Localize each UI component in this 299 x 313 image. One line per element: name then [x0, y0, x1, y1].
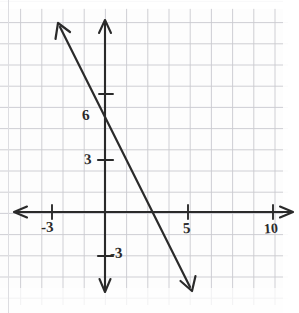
graph-canvas — [0, 0, 299, 313]
x-axis-label-5: 5 — [182, 221, 191, 236]
y-axis-label-3: 3 — [84, 152, 92, 167]
x-axis-label-10: 10 — [264, 222, 279, 237]
grid-bottom-fade — [0, 288, 299, 313]
y-axis-label-neg3: -3 — [109, 246, 123, 262]
x-axis-label-neg3: -3 — [41, 220, 54, 236]
graph-figure: 6 3 -3 -3 5 10 — [0, 0, 299, 313]
grid-top-fade — [0, 0, 299, 9]
grid-right-fade — [283, 0, 299, 313]
y-axis-label-6: 6 — [81, 108, 90, 124]
